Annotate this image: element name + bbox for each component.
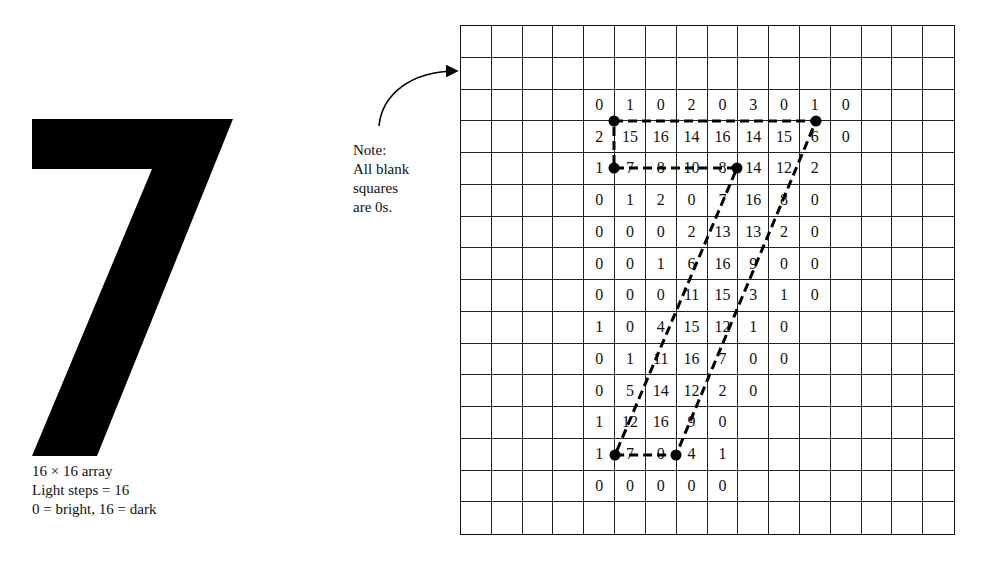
grid-cell: 0 [800, 248, 831, 280]
grid-cell: 1 [584, 407, 615, 439]
grid-cell: 1 [615, 185, 646, 217]
grid-cell [492, 217, 523, 249]
grid-cell [769, 407, 800, 439]
grid-cell: 15 [708, 280, 739, 312]
grid-cell [769, 439, 800, 471]
grid-cell [892, 312, 923, 344]
grid-cell: 13 [708, 217, 739, 249]
grid-cell [769, 375, 800, 407]
grid-cell: 0 [831, 90, 862, 122]
grid-cell: 0 [769, 248, 800, 280]
grid-cell [800, 502, 831, 534]
grid-cell [831, 153, 862, 185]
grid-cell [523, 153, 554, 185]
grid-cell: 0 [769, 90, 800, 122]
grid-cell: 0 [615, 217, 646, 249]
grid-cell [523, 439, 554, 471]
grid-cell [923, 185, 954, 217]
grid-cell: 0 [738, 375, 769, 407]
caption-light-steps: Light steps = 16 [32, 481, 156, 500]
grid-cell: 0 [646, 217, 677, 249]
grid-cell: 0 [708, 407, 739, 439]
grid-cell: 11 [646, 344, 677, 376]
grid-cell [461, 121, 492, 153]
grid-cell [553, 344, 584, 376]
grid-cell: 0 [800, 217, 831, 249]
grid-cell [862, 312, 893, 344]
grid-cell [862, 375, 893, 407]
grid-cell [738, 26, 769, 58]
grid-cell [862, 502, 893, 534]
grid-cell: 7 [615, 439, 646, 471]
grid-cell: 1 [615, 344, 646, 376]
grid-cell [553, 502, 584, 534]
grid-cell [862, 439, 893, 471]
grid-cell [553, 248, 584, 280]
grid-cell: 16 [677, 344, 708, 376]
grid-cell: 1 [584, 153, 615, 185]
grid-cell: 14 [738, 153, 769, 185]
grid-cell [553, 217, 584, 249]
grid-cell [584, 502, 615, 534]
grid-cell [461, 26, 492, 58]
grid-cell [553, 407, 584, 439]
grid-cell: 0 [769, 312, 800, 344]
grid-cell [461, 248, 492, 280]
grid-cell [461, 375, 492, 407]
grid-cell: 0 [584, 280, 615, 312]
grid-cell: 0 [615, 312, 646, 344]
grid-cell [523, 407, 554, 439]
grid-cell [769, 26, 800, 58]
grid-cell: 3 [738, 280, 769, 312]
grid-cell: 2 [677, 217, 708, 249]
grid-cell [553, 375, 584, 407]
grid-cell [862, 248, 893, 280]
grid-cell [553, 58, 584, 90]
grid-cell [831, 185, 862, 217]
grid-cell [492, 185, 523, 217]
grid-cell [892, 90, 923, 122]
grid-cell [523, 185, 554, 217]
grid-cell: 0 [646, 90, 677, 122]
grid-cell [923, 439, 954, 471]
grid-cell [646, 58, 677, 90]
grid-cell [461, 344, 492, 376]
array-caption: 16 × 16 array Light steps = 16 0 = brigh… [32, 462, 156, 519]
grid-cell [492, 58, 523, 90]
grid-cell: 16 [708, 121, 739, 153]
grid-cell [523, 344, 554, 376]
grid-cell [923, 58, 954, 90]
grid-cell [923, 312, 954, 344]
grid-cell [800, 58, 831, 90]
grid-cell [492, 375, 523, 407]
grid-cell: 0 [584, 217, 615, 249]
grid-cell [800, 471, 831, 503]
grid-cell: 8 [708, 153, 739, 185]
grid-cell [923, 344, 954, 376]
grid-cell: 16 [708, 248, 739, 280]
grid-cell [677, 58, 708, 90]
grid-cell [831, 439, 862, 471]
grid-cell: 0 [708, 90, 739, 122]
caption-array-size: 16 × 16 array [32, 462, 156, 481]
grid-cell: 0 [800, 185, 831, 217]
grid-cell [492, 312, 523, 344]
grid-cell [892, 185, 923, 217]
grid-cell [492, 26, 523, 58]
grid-cell: 0 [769, 344, 800, 376]
grid-cell [892, 471, 923, 503]
grid-cell [461, 58, 492, 90]
grid-cell: 2 [769, 217, 800, 249]
grid-cell [615, 58, 646, 90]
grid-cell [461, 280, 492, 312]
grid-cell [862, 26, 893, 58]
grid-cell: 0 [584, 90, 615, 122]
caption-scale: 0 = bright, 16 = dark [32, 500, 156, 519]
grid-cell [923, 375, 954, 407]
grid-cell [492, 90, 523, 122]
grid-cell [831, 471, 862, 503]
grid-cell: 11 [677, 280, 708, 312]
grid-cell [892, 121, 923, 153]
grid-cell [923, 26, 954, 58]
grid-cell [831, 344, 862, 376]
